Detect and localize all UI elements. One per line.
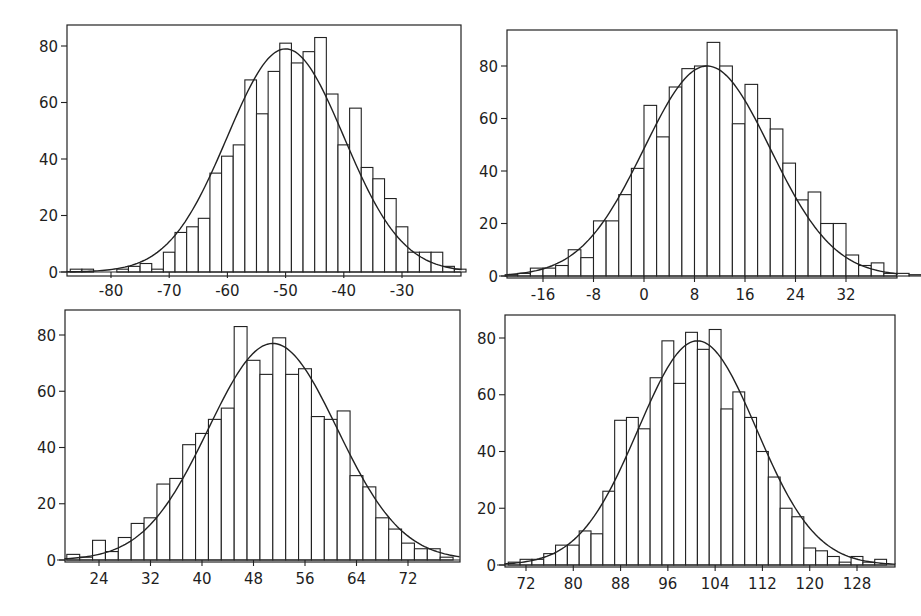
y-tick-label: 0 <box>486 557 496 575</box>
x-tick-label: 96 <box>658 575 677 593</box>
x-tick-label: 24 <box>89 570 108 588</box>
x-tick-label: 64 <box>347 570 366 588</box>
histogram-bar <box>909 275 921 276</box>
histogram-bar <box>268 71 280 272</box>
histogram-bar <box>118 538 131 561</box>
histogram-panel-top-right: -16-808162432020406080 <box>479 30 921 304</box>
x-tick-label: 104 <box>701 575 730 593</box>
histogram-bar <box>175 232 187 272</box>
histogram-bars <box>505 42 921 276</box>
histogram-bar <box>273 338 286 560</box>
y-tick-label: 40 <box>37 439 56 457</box>
histogram-bar <box>579 531 591 565</box>
histogram-bar <box>324 419 337 560</box>
histogram-bar <box>745 417 757 565</box>
histogram-bar <box>581 258 594 276</box>
histogram-bar <box>210 173 222 272</box>
y-tick-label: 60 <box>37 383 56 401</box>
histogram-bar <box>303 52 315 272</box>
x-tick-label: 40 <box>192 570 211 588</box>
x-tick-label: 32 <box>141 570 160 588</box>
histogram-bar <box>707 42 720 276</box>
x-tick-label: 88 <box>611 575 630 593</box>
y-tick-label: 80 <box>37 327 56 345</box>
y-tick-label: 60 <box>479 110 498 128</box>
x-tick-label: 8 <box>690 286 700 304</box>
histogram-figure: -80-70-60-50-40-30020406080-16-808162432… <box>0 0 921 616</box>
histogram-bar <box>686 332 698 565</box>
x-tick-label: -8 <box>586 286 601 304</box>
histogram-bar <box>350 108 362 272</box>
x-tick-label: 24 <box>786 286 805 304</box>
histogram-bar <box>198 218 210 272</box>
y-tick-label: 40 <box>39 151 58 169</box>
histogram-bar <box>594 221 607 276</box>
x-tick-label: -30 <box>390 282 415 300</box>
histogram-bar <box>396 227 408 272</box>
histogram-bar <box>402 543 415 560</box>
histogram-bar <box>757 452 769 566</box>
x-tick-label: 16 <box>735 286 754 304</box>
histogram-bar <box>804 548 816 565</box>
x-tick-label: 120 <box>795 575 824 593</box>
histogram-bar <box>299 369 312 560</box>
histogram-bar <box>796 200 809 276</box>
histogram-bar <box>157 484 170 560</box>
histogram-bar <box>376 518 389 560</box>
y-tick-label: 0 <box>46 552 56 570</box>
y-tick-label: 20 <box>479 215 498 233</box>
y-axis-ticks: 020406080 <box>477 330 505 575</box>
histogram-bar <box>792 517 804 565</box>
histogram-bar <box>183 445 196 560</box>
histogram-bar <box>128 266 140 272</box>
histogram-bar <box>245 80 257 272</box>
histogram-bar <box>286 374 299 560</box>
histogram-bar <box>208 419 221 560</box>
histogram-bar <box>350 476 363 560</box>
histogram-bar <box>257 114 269 272</box>
histogram-bar <box>827 556 839 565</box>
histogram-bar <box>338 145 350 272</box>
histogram-bar <box>897 273 910 276</box>
histogram-bar <box>140 264 152 272</box>
x-tick-label: 56 <box>295 570 314 588</box>
histogram-panel-top-left: -80-70-60-50-40-30020406080 <box>39 25 466 300</box>
x-tick-label: 0 <box>639 286 649 304</box>
histogram-bar <box>280 43 292 272</box>
histogram-bar <box>260 374 273 560</box>
y-tick-label: 80 <box>477 330 496 348</box>
histogram-bar <box>105 552 118 560</box>
histogram-bar <box>606 221 619 276</box>
y-tick-label: 40 <box>479 163 498 181</box>
histogram-bar <box>291 63 303 272</box>
y-axis-ticks: 020406080 <box>39 38 67 282</box>
histogram-bar <box>131 523 144 560</box>
histogram-bar <box>431 252 443 272</box>
y-tick-label: 0 <box>48 264 58 282</box>
histogram-bar <box>682 69 695 276</box>
histogram-bar <box>543 268 556 276</box>
x-tick-label: 32 <box>836 286 855 304</box>
histogram-bar <box>783 163 796 276</box>
y-tick-label: 80 <box>479 58 498 76</box>
histogram-bar <box>603 491 615 565</box>
histogram-bar <box>669 87 682 276</box>
histogram-bar <box>758 119 771 277</box>
histogram-bar <box>196 433 209 560</box>
histogram-bar <box>247 360 260 560</box>
histogram-bar <box>626 417 638 565</box>
x-tick-label: -70 <box>157 282 182 300</box>
histogram-bar <box>187 227 199 272</box>
histogram-bar <box>697 349 709 565</box>
x-tick-label: -60 <box>215 282 240 300</box>
histogram-bar <box>385 199 397 272</box>
histogram-bar <box>315 38 327 272</box>
x-tick-label: -80 <box>99 282 124 300</box>
histogram-bars <box>70 38 466 272</box>
histogram-bars <box>508 329 886 565</box>
x-tick-label: -16 <box>531 286 556 304</box>
y-axis-ticks: 020406080 <box>479 58 507 286</box>
histogram-bar <box>657 137 670 276</box>
x-tick-label: 72 <box>398 570 417 588</box>
x-tick-label: 128 <box>843 575 872 593</box>
